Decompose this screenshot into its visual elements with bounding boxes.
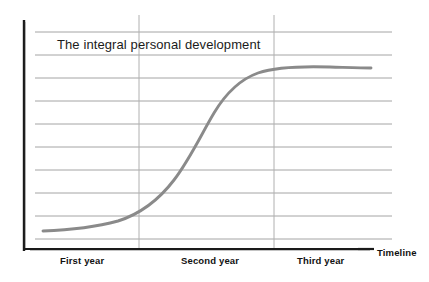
x-tick-label-first-year: First year [60, 255, 104, 266]
x-axis-name: Timeline [377, 247, 417, 258]
chart-figure: The integral personal development First … [0, 0, 429, 282]
y-axis-line [24, 20, 25, 251]
x-axis-line [24, 249, 374, 251]
development-curve [43, 67, 371, 231]
screenshot-root: The integral personal development First … [0, 0, 429, 282]
x-tick-label-second-year: Second year [181, 255, 239, 266]
x-tick-label-third-year: Third year [297, 255, 344, 266]
chart-title: The integral personal development [57, 37, 260, 53]
horizontal-gridlines [35, 32, 392, 239]
